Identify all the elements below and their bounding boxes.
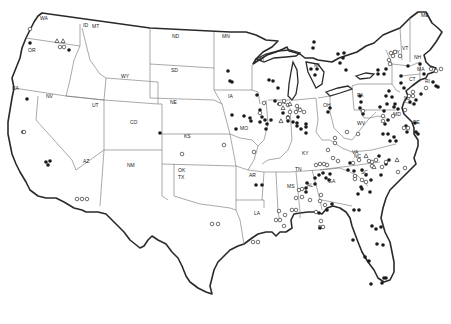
state-label-nh: NH bbox=[414, 54, 422, 60]
triangle-marker-icon bbox=[395, 158, 399, 162]
filled-circle-marker-icon bbox=[419, 92, 423, 96]
filled-circle-marker-icon bbox=[327, 178, 331, 182]
triangle-marker-icon bbox=[364, 154, 368, 158]
filled-circle-marker-icon bbox=[352, 169, 356, 173]
open-circle-marker-icon bbox=[75, 197, 79, 201]
open-circle-marker-icon bbox=[85, 197, 89, 201]
filled-circle-marker-icon bbox=[249, 119, 253, 123]
state-label-mo: MO bbox=[240, 125, 248, 131]
state-label-ut: UT bbox=[92, 102, 99, 108]
filled-circle-marker-icon bbox=[393, 102, 397, 106]
filled-circle-marker-icon bbox=[412, 102, 416, 106]
open-circle-marker-icon bbox=[360, 178, 364, 182]
open-circle-marker-icon bbox=[388, 62, 392, 66]
open-circle-marker-icon bbox=[403, 108, 407, 112]
filled-circle-marker-icon bbox=[264, 127, 268, 131]
open-circle-marker-icon bbox=[384, 160, 388, 164]
state-label-ct: CT bbox=[409, 76, 416, 82]
filled-circle-marker-icon bbox=[377, 154, 381, 158]
open-circle-marker-icon bbox=[411, 94, 415, 98]
filled-circle-marker-icon bbox=[386, 118, 390, 122]
state-label-nv: NV bbox=[46, 93, 54, 99]
filled-circle-marker-icon bbox=[375, 242, 379, 246]
open-circle-marker-icon bbox=[294, 208, 298, 212]
open-circle-marker-icon bbox=[406, 126, 410, 130]
open-circle-marker-icon bbox=[318, 162, 322, 166]
open-circle-marker-icon bbox=[262, 101, 266, 105]
filled-circle-marker-icon bbox=[414, 98, 418, 102]
filled-circle-marker-icon bbox=[352, 208, 356, 212]
filled-circle-marker-icon bbox=[396, 107, 400, 111]
filled-circle-marker-icon bbox=[312, 40, 316, 44]
open-circle-marker-icon bbox=[336, 159, 340, 163]
filled-circle-marker-icon bbox=[406, 64, 410, 68]
open-circle-marker-icon bbox=[28, 27, 32, 31]
state-label-nm: NM bbox=[127, 162, 135, 168]
filled-circle-marker-icon bbox=[394, 139, 398, 143]
open-circle-marker-icon bbox=[222, 143, 226, 147]
open-circle-marker-icon bbox=[374, 158, 378, 162]
open-circle-marker-icon bbox=[216, 222, 220, 226]
filled-circle-marker-icon bbox=[413, 121, 417, 125]
filled-circle-marker-icon bbox=[344, 68, 348, 72]
filled-circle-marker-icon bbox=[315, 67, 319, 71]
open-circle-marker-icon bbox=[294, 196, 298, 200]
open-circle-marker-icon bbox=[58, 45, 62, 49]
filled-circle-marker-icon bbox=[369, 178, 373, 182]
filled-circle-marker-icon bbox=[295, 124, 299, 128]
filled-circle-marker-icon bbox=[234, 127, 238, 131]
open-circle-marker-icon bbox=[62, 45, 66, 49]
open-circle-marker-icon bbox=[80, 197, 84, 201]
filled-circle-marker-icon bbox=[28, 41, 32, 45]
filled-circle-marker-icon bbox=[351, 238, 355, 242]
filled-circle-marker-icon bbox=[309, 67, 313, 71]
filled-circle-marker-icon bbox=[360, 168, 364, 172]
open-circle-marker-icon bbox=[381, 114, 385, 118]
state-label-nc: NC bbox=[354, 153, 362, 159]
filled-circle-marker-icon bbox=[363, 255, 367, 259]
open-circle-marker-icon bbox=[429, 67, 433, 71]
open-circle-marker-icon bbox=[370, 160, 374, 164]
filled-circle-marker-icon bbox=[324, 176, 328, 180]
open-circle-marker-icon bbox=[314, 163, 318, 167]
state-label-or: OR bbox=[28, 47, 36, 53]
filled-circle-marker-icon bbox=[281, 111, 285, 115]
filled-circle-marker-icon bbox=[44, 160, 48, 164]
filled-circle-marker-icon bbox=[360, 187, 364, 191]
filled-circle-marker-icon bbox=[330, 202, 334, 206]
open-circle-marker-icon bbox=[288, 110, 292, 114]
state-label-nd: ND bbox=[172, 33, 180, 39]
open-circle-marker-icon bbox=[325, 163, 329, 167]
filled-circle-marker-icon bbox=[313, 182, 317, 186]
state-label-tx: TX bbox=[178, 174, 185, 180]
filled-circle-marker-icon bbox=[357, 208, 361, 212]
filled-circle-marker-icon bbox=[263, 118, 267, 122]
open-circle-marker-icon bbox=[295, 104, 299, 108]
country-outline bbox=[8, 12, 442, 294]
filled-circle-marker-icon bbox=[405, 130, 409, 134]
open-circle-marker-icon bbox=[180, 152, 184, 156]
open-circle-marker-icon bbox=[258, 111, 262, 115]
filled-circle-marker-icon bbox=[276, 86, 280, 90]
filled-circle-marker-icon bbox=[325, 208, 329, 212]
filled-circle-marker-icon bbox=[359, 100, 363, 104]
open-circle-marker-icon bbox=[361, 109, 365, 113]
filled-circle-marker-icon bbox=[271, 79, 275, 83]
filled-circle-marker-icon bbox=[296, 115, 300, 119]
filled-circle-marker-icon bbox=[431, 80, 435, 84]
filled-circle-marker-icon bbox=[305, 181, 309, 185]
filled-circle-marker-icon bbox=[338, 61, 342, 65]
open-circle-marker-icon bbox=[278, 218, 282, 222]
filled-circle-marker-icon bbox=[385, 102, 389, 106]
filled-circle-marker-icon bbox=[304, 125, 308, 129]
open-circle-marker-icon bbox=[439, 67, 443, 71]
filled-circle-marker-icon bbox=[399, 81, 403, 85]
open-circle-marker-icon bbox=[256, 240, 260, 244]
filled-circle-marker-icon bbox=[230, 113, 234, 117]
filled-circle-marker-icon bbox=[25, 97, 29, 101]
state-label-me: ME bbox=[421, 12, 429, 18]
open-circle-marker-icon bbox=[302, 110, 306, 114]
open-circle-marker-icon bbox=[278, 102, 282, 106]
open-circle-marker-icon bbox=[319, 193, 323, 197]
open-circle-marker-icon bbox=[274, 218, 278, 222]
